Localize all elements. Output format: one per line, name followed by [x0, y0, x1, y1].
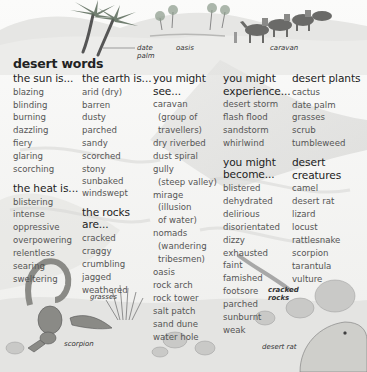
- word-item: caravan: [153, 98, 228, 111]
- word-item: burning: [13, 111, 88, 124]
- heading-experience: you might experience...: [223, 72, 303, 97]
- word-item: parched: [223, 298, 303, 311]
- word-item: water hole: [153, 331, 228, 344]
- word-item: arid (dry): [82, 86, 157, 99]
- word-item: dust spiral: [153, 150, 228, 163]
- label-oasis: oasis: [176, 44, 194, 52]
- word-item: craggy: [82, 245, 157, 258]
- word-item: date palm: [292, 99, 367, 112]
- word-item: sweltering: [13, 273, 88, 286]
- word-item: exhausted: [223, 247, 303, 260]
- column-sun-heat: the sun is... blazing blinding burning d…: [13, 72, 88, 286]
- word-item: vulture: [292, 273, 367, 286]
- word-item: sand dune: [153, 318, 228, 331]
- word-item: jagged: [82, 271, 157, 284]
- word-item: tumbleweed: [292, 137, 367, 150]
- word-item: sunbaked: [82, 176, 157, 187]
- word-item: dusty: [82, 111, 157, 124]
- word-item: dehydrated: [223, 195, 303, 208]
- heading-creatures: desert creatures: [292, 156, 367, 181]
- word-item: blazing: [13, 86, 88, 99]
- column-experience-become: you might experience... desert storm fla…: [223, 72, 303, 337]
- heading-line: creatures: [292, 169, 367, 182]
- word-item: famished: [223, 272, 303, 285]
- heading-see: you might see...: [153, 72, 228, 97]
- word-item: blistered: [223, 182, 303, 195]
- column-earth-rocks: the earth is... arid (dry) barren dusty …: [82, 72, 157, 297]
- word-item: flash flood: [223, 111, 303, 124]
- word-item: nomads: [153, 227, 228, 240]
- word-item: scorched: [82, 150, 157, 163]
- word-item: windswept: [82, 187, 157, 200]
- word-item: sandy: [82, 137, 157, 150]
- heading-sun: the sun is...: [13, 72, 88, 85]
- page-title: desert words: [13, 56, 103, 71]
- word-item: cracked: [82, 232, 157, 245]
- heading-line: see...: [153, 85, 228, 98]
- heading-line: you might: [153, 72, 228, 85]
- word-item: cactus: [292, 86, 367, 99]
- word-item: oppressive: [13, 221, 88, 234]
- word-item: scorching: [13, 163, 88, 176]
- word-item: whirlwind: [223, 137, 303, 150]
- word-item: blinding: [13, 99, 88, 112]
- label-scorpion: scorpion: [64, 340, 94, 348]
- word-item: glaring: [13, 150, 88, 163]
- heading-line: you might: [223, 72, 303, 85]
- column-might-see: you might see... caravan (group of trave…: [153, 72, 228, 343]
- heading-plants: desert plants: [292, 72, 367, 85]
- heading-heat: the heat is...: [13, 182, 88, 195]
- word-item: mirage: [153, 189, 228, 202]
- word-item: delirious: [223, 208, 303, 221]
- word-item: faint: [223, 259, 303, 272]
- word-item: desert rat: [292, 195, 367, 208]
- word-item: intense: [13, 208, 88, 221]
- label-caravan: caravan: [270, 44, 298, 52]
- word-item: gully: [153, 163, 228, 176]
- word-item: oasis: [153, 266, 228, 279]
- word-gloss: (illusion: [153, 201, 228, 214]
- label-line: date: [137, 44, 155, 52]
- word-item: relentless: [13, 247, 88, 260]
- word-item: rock tower: [153, 292, 228, 305]
- word-item: rattlesnake: [292, 234, 367, 247]
- column-plants-creatures: desert plants cactus date palm grasses s…: [292, 72, 367, 286]
- word-item: tarantula: [292, 260, 367, 273]
- word-item: sandstorm: [223, 124, 303, 137]
- word-item: blistering: [13, 196, 88, 209]
- word-item: camel: [292, 182, 367, 195]
- word-item: dizzy: [223, 234, 303, 247]
- heading-line: become...: [223, 168, 303, 181]
- label-date-palm: date palm: [137, 44, 155, 60]
- word-item: scrub: [292, 124, 367, 137]
- word-item: dry riverbed: [153, 137, 228, 150]
- word-item: disorientated: [223, 221, 303, 234]
- word-gloss: (wandering: [153, 240, 228, 253]
- word-item: sunburnt: [223, 311, 303, 324]
- heading-line: desert: [292, 156, 367, 169]
- word-item: rock arch: [153, 279, 228, 292]
- heading-become: you might become...: [223, 156, 303, 181]
- word-item: crumbling: [82, 258, 157, 271]
- heading-line: experience...: [223, 85, 303, 98]
- heading-line: the rocks: [82, 206, 157, 219]
- word-item: lizard: [292, 208, 367, 221]
- word-item: weathered: [82, 284, 157, 297]
- label-desert-rat: desert rat: [262, 343, 296, 351]
- word-item: fiery: [13, 137, 88, 150]
- word-item: desert storm: [223, 98, 303, 111]
- word-item: locust: [292, 221, 367, 234]
- word-item: salt patch: [153, 305, 228, 318]
- word-item: weak: [223, 324, 303, 337]
- label-line: palm: [137, 52, 155, 60]
- word-item: stony: [82, 163, 157, 176]
- word-item: searing: [13, 260, 88, 273]
- heading-line: you might: [223, 156, 303, 169]
- word-item: footsore: [223, 285, 303, 298]
- word-item: dazzling: [13, 124, 88, 137]
- heading-line: are...: [82, 218, 157, 231]
- word-item: barren: [82, 99, 157, 112]
- word-item: scorpion: [292, 247, 367, 260]
- heading-earth: the earth is...: [82, 72, 157, 85]
- word-gloss: of water): [153, 214, 228, 227]
